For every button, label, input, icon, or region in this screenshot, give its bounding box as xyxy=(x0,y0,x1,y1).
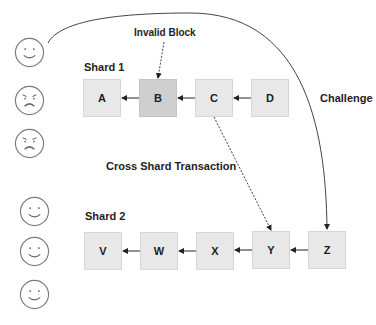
block-z: Z xyxy=(308,231,346,269)
cross-shard-arrow xyxy=(214,117,271,230)
invalid-block-pointer xyxy=(158,42,164,78)
angry-face-icon xyxy=(14,85,45,116)
cross-shard-label: Cross Shard Transaction xyxy=(106,161,236,172)
block-v: V xyxy=(84,232,122,270)
challenge-arrow xyxy=(48,13,327,229)
shard-2-label: Shard 2 xyxy=(85,211,125,222)
happy-face-icon xyxy=(19,196,50,227)
block-y: Y xyxy=(252,231,290,269)
block-d: D xyxy=(251,79,289,117)
challenge-label: Challenge xyxy=(320,93,373,104)
happy-face-icon xyxy=(19,236,50,267)
block-c: C xyxy=(195,79,233,117)
block-a: A xyxy=(83,79,121,117)
block-b-invalid: B xyxy=(139,79,177,117)
invalid-block-label: Invalid Block xyxy=(134,28,196,38)
angry-face-icon xyxy=(14,128,45,159)
shard-1-label: Shard 1 xyxy=(84,62,124,73)
happy-face-icon xyxy=(14,37,45,68)
happy-face-icon xyxy=(19,279,50,310)
block-w: W xyxy=(140,232,178,270)
block-x: X xyxy=(196,232,234,270)
